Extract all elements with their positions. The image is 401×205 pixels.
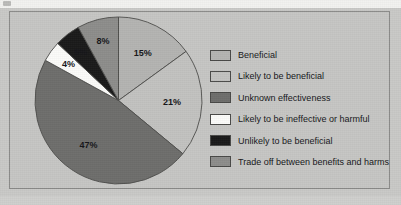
pie-slice-label: 8% (97, 36, 110, 46)
legend-label: Beneficial (238, 50, 277, 60)
legend-label: Likely to be ineffective or harmful (238, 114, 369, 124)
legend-swatch-trade-off (210, 156, 231, 167)
legend-label: Trade off between benefits and harms (238, 157, 389, 167)
legend-swatch-likely-beneficial (210, 71, 231, 82)
pie-svg: 15%21%47%4%5%8% (34, 16, 203, 185)
pie-slice-label: 15% (134, 48, 152, 58)
legend-item[interactable]: Trade off between benefits and harms (210, 153, 388, 171)
legend-label: Unlikely to be beneficial (238, 136, 333, 146)
legend-item[interactable]: Unlikely to be beneficial (210, 132, 388, 150)
pie-chart: 15%21%47%4%5%8% (34, 16, 203, 185)
scan-top-margin (0, 0, 401, 8)
legend-item[interactable]: Likely to be ineffective or harmful (210, 110, 388, 128)
legend-item[interactable]: Unknown effectiveness (210, 89, 388, 107)
legend-item[interactable]: Beneficial (210, 46, 388, 64)
legend-swatch-beneficial (210, 50, 231, 61)
pie-slice-label: 4% (62, 59, 75, 69)
scan-artifact-speck (3, 1, 11, 6)
pie-slice-label: 21% (163, 97, 181, 107)
chart-image: 15%21%47%4%5%8% Beneficial Likely to be … (0, 0, 401, 205)
legend-item[interactable]: Likely to be beneficial (210, 67, 388, 85)
legend: Beneficial Likely to be beneficial Unkno… (210, 46, 388, 174)
scan-bottom-margin (0, 196, 401, 205)
legend-swatch-unlikely-beneficial (210, 135, 231, 146)
legend-label: Likely to be beneficial (238, 71, 324, 81)
legend-label: Unknown effectiveness (238, 93, 330, 103)
pie-slice-label: 5% (74, 47, 87, 57)
legend-swatch-unknown-effectiveness (210, 92, 231, 103)
legend-swatch-ineffective-or-harmful (210, 114, 231, 125)
pie-slice-label: 47% (79, 140, 97, 150)
